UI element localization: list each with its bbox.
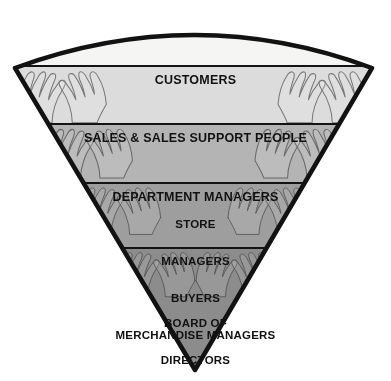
band-fill-store <box>0 183 391 248</box>
band-fill-board <box>0 248 391 381</box>
funnel-graphic <box>0 0 391 381</box>
inverted-pyramid-diagram: CUSTOMERS SALES & SALES SUPPORT PEOPLE D… <box>0 0 391 381</box>
